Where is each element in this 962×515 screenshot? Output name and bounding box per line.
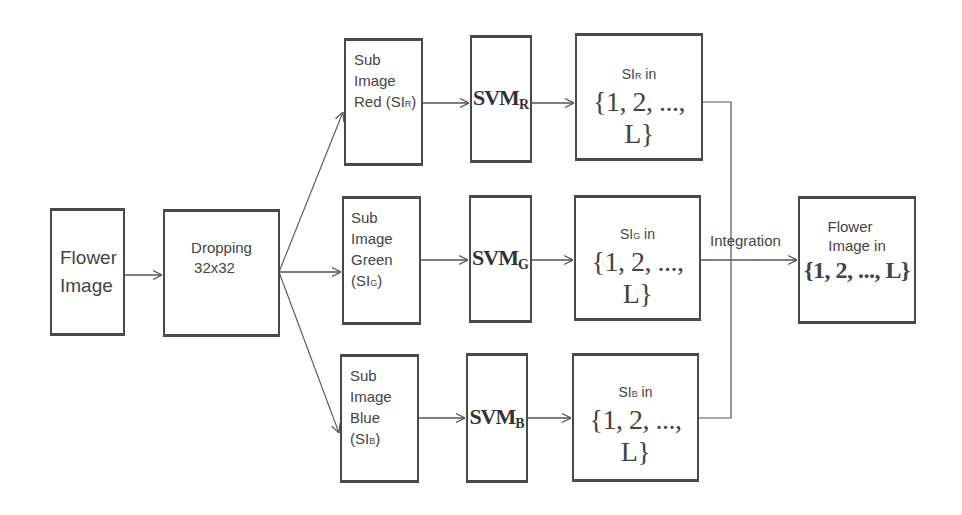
sub-blue-l1: Sub xyxy=(350,365,392,386)
result-red-set: {1, 2, ..., L} xyxy=(577,86,701,150)
integration-label: Integration xyxy=(710,232,781,249)
svm-blue-label: SVMB xyxy=(468,404,526,432)
dropping-line1: Dropping xyxy=(165,238,278,258)
sub-image-red-box: Sub Image Red (SIR) xyxy=(344,38,423,166)
result-blue-box: SIB in {1, 2, ..., L} xyxy=(572,353,699,482)
svm-green-box: SVMG xyxy=(469,195,532,323)
svm-red-box: SVMR xyxy=(470,35,532,163)
output-line2: Image in xyxy=(800,236,914,255)
input-line2: Image xyxy=(60,272,117,300)
flower-image-box: Flower Image xyxy=(50,208,125,336)
svm-blue-box: SVMB xyxy=(466,353,528,483)
sub-red-l2: Image xyxy=(354,70,416,91)
result-green-set: {1, 2, ..., L} xyxy=(576,246,699,310)
output-line1: Flower xyxy=(800,217,900,236)
arrow-dropping-to-blue xyxy=(279,272,339,433)
svm-red-label: SVMR xyxy=(472,85,530,113)
sub-image-green-box: Sub Image Green (SIG) xyxy=(342,196,421,325)
dropping-box: Dropping 32x32 xyxy=(163,209,280,337)
sub-blue-l4: (SIB) xyxy=(350,428,392,452)
sub-red-l3: Red (SIR) xyxy=(354,91,416,115)
dropping-line2: 32x32 xyxy=(165,258,264,278)
output-box: Flower Image in {1, 2, ..., L} xyxy=(798,196,916,324)
output-set: {1, 2, ..., L} xyxy=(800,257,914,284)
sub-green-l1: Sub xyxy=(351,207,393,228)
sub-green-l3: Green xyxy=(351,249,393,270)
result-red-box: SIR in {1, 2, ..., L} xyxy=(575,33,703,161)
sub-blue-l2: Image xyxy=(350,386,392,407)
result-blue-title: SIB in xyxy=(574,384,697,400)
result-blue-set: {1, 2, ..., L} xyxy=(574,404,697,468)
input-line1: Flower xyxy=(60,244,117,272)
svm-green-label: SVMG xyxy=(471,245,530,273)
result-green-box: SIG in {1, 2, ..., L} xyxy=(574,195,701,321)
sub-blue-l3: Blue xyxy=(350,407,392,428)
sub-image-blue-box: Sub Image Blue (SIB) xyxy=(340,354,419,483)
sub-green-l2: Image xyxy=(351,228,393,249)
sub-red-l1: Sub xyxy=(354,49,416,70)
result-red-title: SIR in xyxy=(577,66,701,82)
arrow-dropping-to-red xyxy=(279,112,343,272)
sub-green-l4: (SIG) xyxy=(351,270,393,294)
result-green-title: SIG in xyxy=(576,226,699,242)
